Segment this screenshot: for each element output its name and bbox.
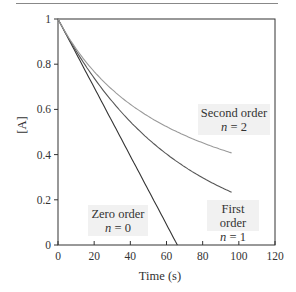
annotation-first-n: n = 1	[207, 230, 259, 244]
annotation-second-order: Second order n = 2	[198, 104, 270, 135]
y-tick-label: 0.2	[37, 194, 52, 206]
x-tick-label: 100	[230, 250, 248, 262]
y-tick-label: 0.6	[37, 103, 52, 115]
annotation-second-title: Second order	[198, 106, 270, 120]
x-tick-label: 80	[197, 250, 209, 262]
x-tick-label: 0	[55, 250, 61, 262]
y-tick-label: 0.4	[37, 149, 52, 161]
y-axis-label: [A]	[15, 116, 29, 133]
annotation-first-title: First order	[207, 202, 259, 230]
annotation-second-n: n = 2	[198, 120, 270, 134]
x-tick-label: 20	[88, 250, 100, 262]
x-tick-label: 40	[125, 250, 137, 262]
annotation-zero-title: Zero order	[88, 207, 148, 221]
y-tick-label: 1	[45, 13, 51, 25]
x-tick-label: 120	[266, 250, 284, 262]
chart: 02040608010012000.20.40.60.81 Time (s) […	[0, 0, 296, 292]
annotation-first-order: First order n = 1	[207, 200, 259, 231]
annotation-zero-n: n = 0	[88, 221, 148, 235]
x-axis-label: Time (s)	[139, 269, 181, 283]
y-tick-label: 0	[45, 239, 51, 251]
annotation-zero-order: Zero order n = 0	[88, 205, 148, 236]
y-tick-label: 0.8	[37, 58, 52, 70]
x-tick-label: 60	[161, 250, 173, 262]
